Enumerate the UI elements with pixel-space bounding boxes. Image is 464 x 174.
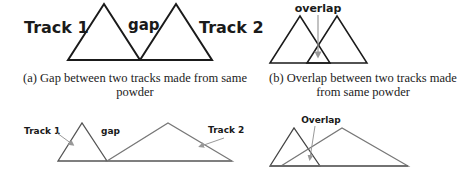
gap-label: gap bbox=[101, 126, 121, 136]
track1-label: Track 1 bbox=[24, 126, 60, 136]
track2-label: Track 2 bbox=[199, 18, 264, 37]
track2-triangle bbox=[281, 128, 408, 166]
panel-b-overlap: overlap (b) Overlap between two tracks m… bbox=[269, 2, 457, 99]
track1-triangle bbox=[270, 16, 330, 63]
track1-label: Track 1 bbox=[24, 18, 89, 37]
gap-label: gap bbox=[128, 16, 160, 34]
overlap-label: Overlap bbox=[301, 115, 341, 125]
caption-a-line2: powder bbox=[116, 85, 154, 99]
caption-b-line1: (b) Overlap between two tracks made bbox=[269, 71, 457, 85]
panel-c-gap: Track 1 gap Track 2 bbox=[24, 123, 244, 161]
overlap-arrow-icon bbox=[310, 126, 315, 158]
track2-triangle bbox=[307, 16, 367, 63]
track1-triangle bbox=[58, 123, 107, 161]
track2-arrow-icon bbox=[201, 138, 224, 146]
overlap-label: overlap bbox=[295, 2, 342, 15]
caption-b-line2: from same powder bbox=[316, 85, 411, 99]
track2-label: Track 2 bbox=[208, 125, 244, 135]
caption-a-line1: (a) Gap between two tracks made from sam… bbox=[23, 71, 247, 85]
diagram-canvas: Track 1 gap Track 2 (a) Gap between two … bbox=[0, 0, 464, 174]
panel-d-overlap: Overlap bbox=[270, 115, 408, 166]
track1-arrow-icon bbox=[57, 133, 72, 144]
panel-a-gap: Track 1 gap Track 2 (a) Gap between two … bbox=[23, 4, 264, 99]
